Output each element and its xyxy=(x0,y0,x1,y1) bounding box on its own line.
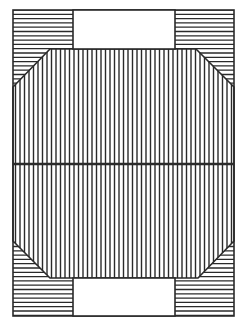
hatched-floor-plan-diagram xyxy=(0,0,243,330)
bottom-blank-panel xyxy=(73,278,175,316)
top-blank-panel xyxy=(73,10,175,49)
